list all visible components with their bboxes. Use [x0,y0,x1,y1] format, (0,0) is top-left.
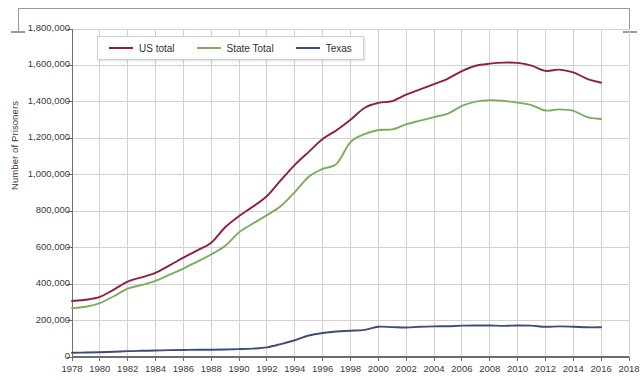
legend-entry: US total [109,43,175,54]
legend-label: State Total [227,43,274,54]
x-tick-label: 1992 [256,363,277,374]
series-line-us-total [72,63,601,301]
x-tick-label: 2016 [591,363,612,374]
x-tick-label: 1984 [145,363,166,374]
y-tick-label: 1,200,000 [8,131,70,142]
x-tick-label: 2014 [563,363,584,374]
y-tick-label: 1,800,000 [8,22,70,33]
y-tick-label: 0 [8,350,70,361]
x-tick-label: 1980 [89,363,110,374]
x-tick-label: 1990 [229,363,250,374]
x-tick-label: 2010 [507,363,528,374]
series-line-texas [72,325,601,352]
legend-swatch [109,47,133,49]
y-tick-label: 400,000 [8,277,70,288]
legend-swatch [197,47,221,49]
x-tick-label: 1994 [284,363,305,374]
tick-marks [67,29,629,361]
x-tick-label: 1982 [117,363,138,374]
y-tick-label: 800,000 [8,204,70,215]
x-tick-labels: 1978198019821984198619881990199219941996… [0,361,637,379]
y-tick-label: 600,000 [8,241,70,252]
chart-legend: US totalState TotalTexas [97,36,364,60]
y-tick-label: 1,400,000 [8,95,70,106]
x-tick-label: 1978 [61,363,82,374]
x-tick-label: 2000 [368,363,389,374]
legend-entry: Texas [296,43,352,54]
y-tick-label: 200,000 [8,314,70,325]
x-tick-label: 2018 [618,363,639,374]
legend-label: US total [139,43,175,54]
x-tick-label: 1986 [173,363,194,374]
y-tick-label: 1,000,000 [8,168,70,179]
data-series-layer [72,63,601,353]
y-tick-label: 1,600,000 [8,58,70,69]
x-tick-label: 2008 [479,363,500,374]
x-tick-label: 1988 [201,363,222,374]
x-tick-label: 2002 [396,363,417,374]
x-tick-label: 1996 [312,363,333,374]
legend-entry: State Total [197,43,274,54]
legend-label: Texas [326,43,352,54]
x-tick-label: 1998 [340,363,361,374]
x-tick-label: 2004 [423,363,444,374]
x-tick-label: 2012 [535,363,556,374]
vertical-gridlines [72,29,629,357]
y-tick-labels: 0200,000400,000600,000800,0001,000,0001,… [8,0,70,380]
legend-swatch [296,47,320,49]
x-tick-label: 2006 [451,363,472,374]
